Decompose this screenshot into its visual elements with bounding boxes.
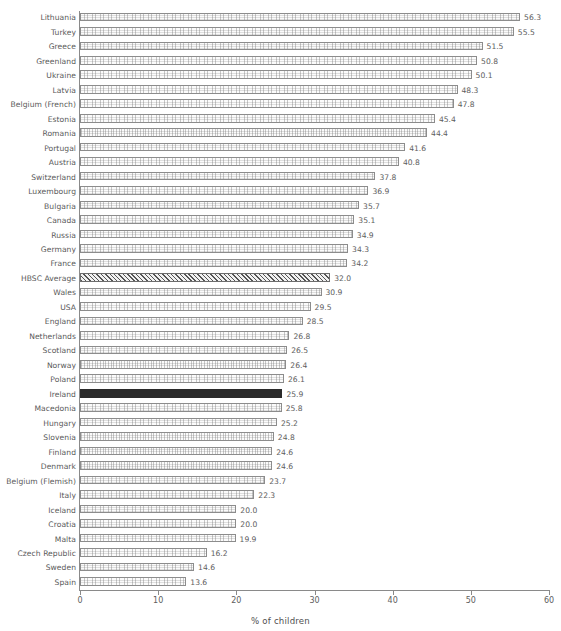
bar-value-label: 24.8 <box>278 434 295 442</box>
bar <box>80 461 272 470</box>
category-label: Switzerland <box>31 174 76 182</box>
bar-row: Switzerland37.8 <box>80 170 549 185</box>
bar <box>80 42 483 51</box>
bar <box>80 85 458 94</box>
category-label: Russia <box>51 232 76 240</box>
bar-value-label: 20.0 <box>240 521 257 529</box>
bar-value-label: 36.9 <box>372 188 389 196</box>
bar <box>80 563 194 572</box>
bar-row: Poland26.1 <box>80 373 549 388</box>
bar-value-label: 26.1 <box>288 376 305 384</box>
bar-value-label: 37.8 <box>379 174 396 182</box>
bar-value-label: 41.6 <box>409 145 426 153</box>
bar <box>80 519 236 528</box>
bar-value-label: 34.3 <box>352 246 369 254</box>
bar <box>80 418 277 427</box>
bar <box>80 143 405 152</box>
category-label: USA <box>60 304 76 312</box>
category-label: Belgium (Flemish) <box>6 478 76 486</box>
bar-row: Lithuania56.3 <box>80 11 549 26</box>
bar <box>80 27 514 36</box>
x-axis-tick-label: 40 <box>388 597 398 605</box>
bar-value-label: 25.9 <box>286 391 303 399</box>
bar-value-label: 24.6 <box>276 463 293 471</box>
category-label: Malta <box>55 536 76 544</box>
category-label: Luxembourg <box>28 188 76 196</box>
category-label: Wales <box>53 290 76 298</box>
bar-row: Sweden14.6 <box>80 561 549 576</box>
bar-row: Belgium (French)47.8 <box>80 98 549 113</box>
x-axis-tick <box>393 590 394 595</box>
bar-value-label: 13.6 <box>190 579 207 587</box>
bar <box>80 317 303 326</box>
x-axis-tick <box>236 590 237 595</box>
bar-row: Bulgaria35.7 <box>80 199 549 214</box>
plot-area: Lithuania56.3Turkey55.5Greece51.5Greenla… <box>80 11 549 590</box>
bar-row: Hungary25.2 <box>80 416 549 431</box>
category-label: Canada <box>47 217 76 225</box>
category-label: Hungary <box>43 420 76 428</box>
category-label: England <box>45 319 76 327</box>
bar-row: Finland24.6 <box>80 445 549 460</box>
category-label: Ireland <box>49 391 76 399</box>
category-label: Germany <box>41 246 76 254</box>
bar <box>80 186 368 195</box>
bar-value-label: 35.1 <box>358 217 375 225</box>
category-label: Sweden <box>46 565 76 573</box>
bar <box>80 259 347 268</box>
bar-row: Latvia48.3 <box>80 83 549 98</box>
bar <box>80 360 286 369</box>
bar-value-label: 26.8 <box>293 333 310 341</box>
bar-row: USA29.5 <box>80 301 549 316</box>
bar-row: Scotland26.5 <box>80 344 549 359</box>
bar-row: Canada35.1 <box>80 214 549 229</box>
x-axis-tick <box>80 590 81 595</box>
x-axis-tick-label: 60 <box>544 597 554 605</box>
bar-row: HBSC Average32.0 <box>80 272 549 287</box>
x-axis-tick <box>471 590 472 595</box>
category-label: Lithuania <box>40 15 76 23</box>
bar-row: Greenland50.8 <box>80 54 549 69</box>
bar <box>80 476 265 485</box>
category-label: Croatia <box>48 521 76 529</box>
category-label: Bulgaria <box>44 203 76 211</box>
bar <box>80 288 322 297</box>
bar-value-label: 23.7 <box>269 478 286 486</box>
bar-value-label: 22.3 <box>258 492 275 500</box>
bar <box>80 389 282 398</box>
bar <box>80 447 272 456</box>
x-axis-tick-label: 50 <box>466 597 476 605</box>
bar-row: Norway26.4 <box>80 358 549 373</box>
bar-chart: Lithuania56.3Turkey55.5Greece51.5Greenla… <box>0 0 561 631</box>
bar-row: Germany34.3 <box>80 243 549 258</box>
bar-row: Slovenia24.8 <box>80 431 549 446</box>
bar-value-label: 45.4 <box>439 116 456 124</box>
bar-row: Netherlands26.8 <box>80 329 549 344</box>
bar <box>80 548 207 557</box>
x-axis-tick <box>549 590 550 595</box>
bar <box>80 302 311 311</box>
bar <box>80 230 353 239</box>
category-label: Latvia <box>53 87 76 95</box>
bar-row: Spain13.6 <box>80 576 549 591</box>
x-axis-tick <box>158 590 159 595</box>
bar-row: Turkey55.5 <box>80 25 549 40</box>
bar <box>80 374 284 383</box>
bar-value-label: 20.0 <box>240 507 257 515</box>
bar-row: Luxembourg36.9 <box>80 185 549 200</box>
bar-value-label: 30.9 <box>326 290 343 298</box>
bar-value-label: 26.5 <box>291 348 308 356</box>
bar-value-label: 56.3 <box>524 15 541 23</box>
bar-value-label: 50.8 <box>481 58 498 66</box>
bar-row: England28.5 <box>80 315 549 330</box>
category-label: Portugal <box>44 145 76 153</box>
bar <box>80 157 399 166</box>
bar <box>80 172 375 181</box>
bar <box>80 99 454 108</box>
bar-row: Iceland20.0 <box>80 503 549 518</box>
bar-row: Czech Republic16.2 <box>80 547 549 562</box>
bar-value-label: 25.2 <box>281 420 298 428</box>
bar-value-label: 16.2 <box>211 550 228 558</box>
bar-value-label: 14.6 <box>198 565 215 573</box>
bar <box>80 201 359 210</box>
